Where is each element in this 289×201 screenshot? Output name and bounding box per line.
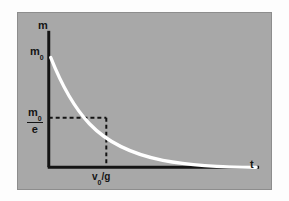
y-tick-label-m0: m0 bbox=[30, 46, 44, 59]
fraction-num-subscript: 0 bbox=[38, 115, 42, 122]
x-tick-label-v0-over-g: v0/g bbox=[92, 171, 110, 184]
x-axis-label: t bbox=[250, 159, 254, 170]
m0-base: m bbox=[30, 45, 40, 57]
y-axis-label: m bbox=[38, 20, 48, 31]
exponential-decay-curve bbox=[51, 57, 256, 167]
fraction-denominator: e bbox=[27, 124, 43, 136]
fraction-numerator: m0 bbox=[27, 107, 43, 121]
chart-panel: m t m0 m0 e v0/g bbox=[17, 12, 272, 190]
decay-curve-plot bbox=[18, 13, 271, 189]
m0-subscript: 0 bbox=[40, 54, 44, 61]
fraction-num-base: m bbox=[28, 106, 38, 118]
v0g-subscript: 0 bbox=[98, 179, 102, 186]
v0g-base: v bbox=[92, 171, 98, 182]
v0g-rest: /g bbox=[101, 171, 110, 182]
figure-container: m t m0 m0 e v0/g bbox=[0, 0, 289, 201]
y-tick-label-m0-over-e: m0 e bbox=[27, 107, 43, 135]
